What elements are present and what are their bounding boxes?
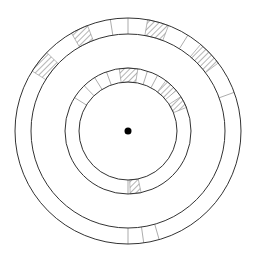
inner-ring-divider: [143, 71, 147, 84]
outer-ring-divider: [110, 19, 113, 35]
inner-ring-divider: [106, 72, 111, 85]
center-dot: [125, 128, 132, 135]
outer-ring-divider: [141, 227, 143, 243]
inner-ring-hatched-segment: [157, 81, 176, 100]
inner-ring-hatched-segment: [130, 179, 141, 194]
inner-ring-divider: [84, 86, 94, 96]
concentric-ring-diagram: [0, 0, 253, 261]
inner-ring-hatched-segment: [119, 68, 138, 83]
segment-dividers: [75, 18, 235, 244]
outer-ring-hatched-segment: [72, 26, 94, 47]
inner-ring-divider: [75, 98, 87, 105]
outer-ring-hatched-segment: [145, 20, 169, 41]
inner-ring-hatched-segment: [169, 97, 186, 113]
inner-ring-divider: [95, 78, 102, 90]
outer-ring-divider: [179, 35, 187, 49]
outer-ring-divider: [219, 92, 234, 97]
hatched-segments: [32, 20, 218, 194]
outer-ring-divider: [155, 224, 159, 239]
inner-ring-divider: [151, 75, 158, 87]
